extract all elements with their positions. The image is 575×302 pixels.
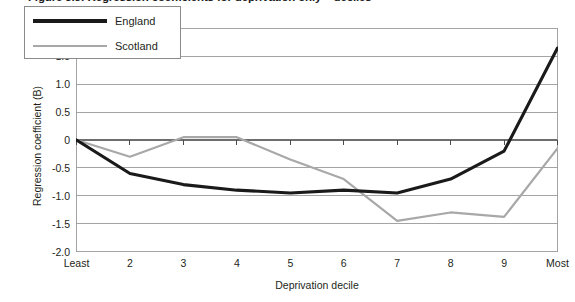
series-line-england [77,48,558,193]
x-axis-tick-labels: Least23456789Most [76,258,558,274]
line-chart-svg [76,28,558,252]
x-tick-label: 5 [287,258,293,269]
legend-item-scotland: Scotland [25,33,180,59]
y-tick-label: 0 [30,135,70,146]
x-tick-label: 4 [234,258,240,269]
x-axis-title: Deprivation decile [76,279,558,291]
legend-label-scotland: Scotland [115,40,158,52]
y-tick-label: 0.5 [30,107,70,118]
y-tick-label: 1.0 [30,79,70,90]
y-tick-label: -1.5 [30,219,70,230]
x-tick-label: 3 [180,258,186,269]
y-axis-tick-labels: 2.01.51.00.50-0.5-1.0-1.5-2.0 [26,28,70,252]
legend-line-swatch-scotland [33,45,107,47]
y-tick-label: -2.0 [30,247,70,258]
x-tick-label: Most [546,258,569,269]
x-tick-label: 9 [501,258,507,269]
y-tick-label: -0.5 [30,163,70,174]
series-line-scotland [77,137,558,221]
x-tick-label: 7 [394,258,400,269]
x-tick-label: 8 [448,258,454,269]
figure-title: Figure 3.3: Regression coefficients for … [28,0,372,3]
chart-legend: England Scotland [24,6,181,59]
x-tick-label: 2 [127,258,133,269]
legend-label-england: England [115,15,155,27]
figure-screenshot: Figure 3.3: Regression coefficients for … [0,0,575,302]
y-tick-label: -1.0 [30,191,70,202]
plot-area [76,28,558,252]
legend-line-swatch-england [33,19,107,22]
x-tick-label: Least [64,258,90,269]
legend-item-england: England [25,8,180,34]
x-tick-label: 6 [341,258,347,269]
